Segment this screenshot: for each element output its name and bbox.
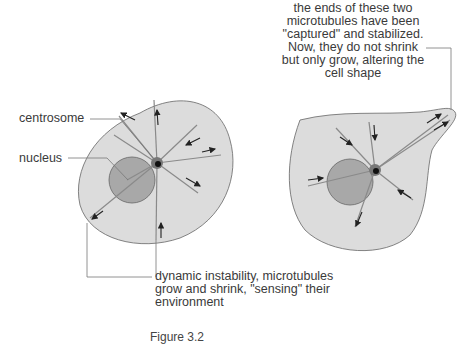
figure-caption: Figure 3.2 [150,330,204,344]
right-cell [289,108,455,250]
left-cell [78,100,233,244]
top-note-leader [426,48,451,110]
captured-microtubules-note: the ends of these two microtubules have … [278,2,428,80]
centrosome-label: centrosome [19,112,84,125]
left-centrosome [151,157,163,169]
nucleus-label: nucleus [19,152,62,165]
right-centrosome [369,164,381,176]
right-nucleus [327,159,373,205]
dynamic-instability-note: dynamic instability, microtubules grow a… [155,270,335,309]
